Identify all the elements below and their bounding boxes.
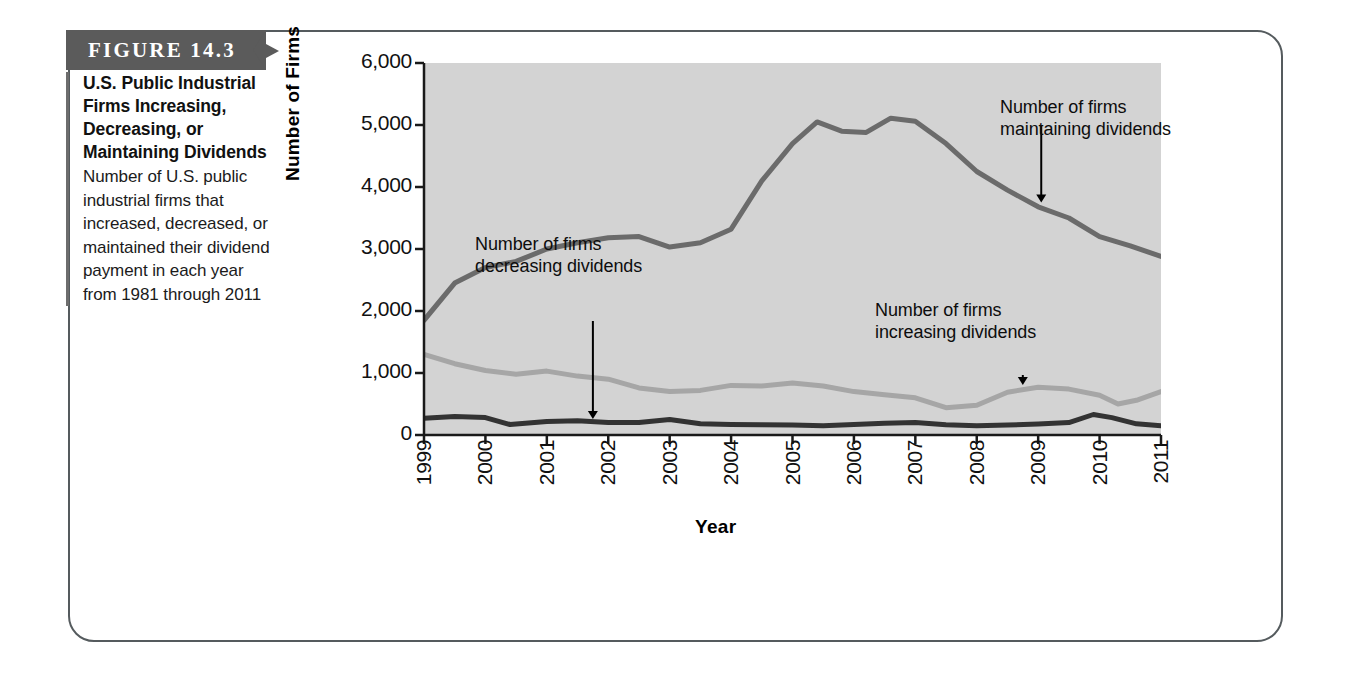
- annotation-maintaining-line2: maintaining dividends: [1000, 118, 1171, 140]
- annotation-maintaining-dividends: Number of firms maintaining dividends: [1000, 96, 1171, 140]
- x-tick-label-2006: 2006: [842, 440, 866, 485]
- x-tick-label-2009: 2009: [1026, 440, 1050, 485]
- x-tick-label-1999: 1999: [412, 440, 436, 485]
- x-tick-label-2005: 2005: [781, 440, 805, 485]
- y-tick-label-4000: 4,000: [361, 173, 412, 197]
- banner-notch-arrow-icon: [266, 44, 279, 58]
- banner-notch-shape: [253, 30, 266, 70]
- y-tick-label-6000: 6,000: [361, 49, 412, 73]
- annotation-decreasing-dividends: Number of firms decreasing dividends: [475, 233, 642, 277]
- annotation-maintaining-line1: Number of firms: [1000, 96, 1171, 118]
- y-tick-label-0: 0: [401, 421, 412, 445]
- caption-body: Number of U.S. public industrial firms t…: [83, 165, 281, 306]
- annotation-increasing-line1: Number of firms: [875, 299, 1036, 321]
- x-tick-label-2007: 2007: [903, 440, 927, 485]
- caption-title: U.S. Public Industrial Firms Increasing,…: [83, 72, 281, 164]
- y-tick-label-3000: 3,000: [361, 235, 412, 259]
- annotation-increasing-line2: increasing dividends: [875, 321, 1036, 343]
- x-tick-label-2001: 2001: [535, 440, 559, 485]
- annotation-decreasing-line1: Number of firms: [475, 233, 642, 255]
- figure-banner: FIGURE 14.3: [66, 30, 266, 70]
- y-tick-label-5000: 5,000: [361, 111, 412, 135]
- y-tick-label-2000: 2,000: [361, 297, 412, 321]
- y-axis-tick-labels: 01,0002,0003,0004,0005,0006,000: [300, 36, 412, 436]
- x-tick-label-2008: 2008: [965, 440, 989, 485]
- x-axis-title: Year: [695, 516, 736, 538]
- x-tick-label-2002: 2002: [596, 440, 620, 485]
- x-tick-label-2000: 2000: [473, 440, 497, 485]
- annotation-decreasing-line2: decreasing dividends: [475, 255, 642, 277]
- y-tick-label-1000: 1,000: [361, 359, 412, 383]
- figure-banner-label: FIGURE 14.3: [88, 38, 236, 63]
- x-tick-label-2010: 2010: [1088, 440, 1112, 485]
- annotation-increasing-dividends: Number of firms increasing dividends: [875, 299, 1036, 343]
- chart: Number of Firms 01,0002,0003,0004,0005,0…: [300, 36, 1260, 576]
- figure-caption: U.S. Public Industrial Firms Increasing,…: [66, 72, 281, 306]
- x-tick-label-2003: 2003: [658, 440, 682, 485]
- x-tick-label-2011: 2011: [1149, 440, 1173, 484]
- x-tick-label-2004: 2004: [719, 440, 743, 485]
